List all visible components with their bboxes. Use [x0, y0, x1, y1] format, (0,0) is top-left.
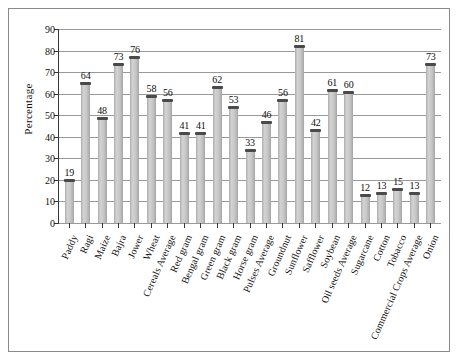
bar[interactable]: 41 — [196, 135, 205, 223]
bar-cap — [162, 99, 173, 102]
y-tick-label: 60 — [45, 88, 55, 99]
bar-cap — [360, 194, 371, 197]
x-tick-label: Onion — [420, 233, 440, 261]
y-tick-label: 50 — [45, 110, 55, 121]
bar-slot: 62 — [209, 29, 225, 223]
bar[interactable]: 56 — [163, 102, 172, 223]
x-label-slot: Red gram — [176, 231, 192, 351]
bar-cap — [277, 99, 288, 102]
bar-value-label: 15 — [393, 176, 403, 187]
x-label-slot: Onion — [423, 231, 439, 351]
x-tick-slot — [209, 223, 225, 229]
bar-value-label: 48 — [97, 105, 107, 116]
bar-value-label: 73 — [114, 51, 124, 62]
bar-slot: 56 — [275, 29, 291, 223]
y-tick-label: 70 — [45, 67, 55, 78]
x-tick-slot — [193, 223, 209, 229]
x-tick-mark — [282, 223, 283, 228]
x-tick-slot — [127, 223, 143, 229]
bar-slot: 58 — [143, 29, 159, 223]
x-tick-mark — [102, 223, 103, 228]
x-tick-mark — [381, 223, 382, 228]
bar-cap — [245, 149, 256, 152]
x-tick-mark — [430, 223, 431, 228]
bar-cap — [80, 82, 91, 85]
x-tick-mark — [217, 223, 218, 228]
bar-value-label: 12 — [360, 182, 370, 193]
bar[interactable]: 46 — [262, 124, 271, 223]
bar[interactable]: 12 — [361, 197, 370, 223]
x-tick-mark — [299, 223, 300, 228]
x-tick-slot — [143, 223, 159, 229]
bar-slot: 56 — [160, 29, 176, 223]
bar-value-label: 56 — [278, 87, 288, 98]
bar[interactable]: 56 — [278, 102, 287, 223]
bar-value-label: 19 — [64, 167, 74, 178]
x-tick-slot — [275, 223, 291, 229]
x-tick-slot — [225, 223, 241, 229]
bar-value-label: 73 — [426, 51, 436, 62]
x-tick-mark — [250, 223, 251, 228]
bar[interactable]: 33 — [246, 152, 255, 223]
bar-slot: 15 — [390, 29, 406, 223]
bar-value-label: 76 — [130, 44, 140, 55]
bar-value-label: 42 — [311, 117, 321, 128]
bar[interactable]: 64 — [81, 85, 90, 223]
bar-value-label: 13 — [377, 180, 387, 191]
bar[interactable]: 13 — [377, 195, 386, 223]
bar-cap — [179, 132, 190, 135]
bar-cap — [228, 106, 239, 109]
bar[interactable]: 15 — [393, 191, 402, 223]
bar[interactable]: 13 — [410, 195, 419, 223]
y-axis-title: Percentage — [22, 49, 34, 169]
x-tick-slot — [242, 223, 258, 229]
x-tick-mark — [348, 223, 349, 228]
x-label-slot: Bengal gram — [193, 231, 209, 351]
bar-slot: 76 — [127, 29, 143, 223]
bar-slot: 73 — [110, 29, 126, 223]
bar-cap — [261, 121, 272, 124]
bar[interactable]: 76 — [130, 59, 139, 223]
bar[interactable]: 62 — [213, 89, 222, 223]
bar-cap — [195, 132, 206, 135]
bar-cap — [327, 89, 338, 92]
bar-slot: 60 — [340, 29, 356, 223]
x-tick-slot — [258, 223, 274, 229]
bar[interactable]: 73 — [114, 66, 123, 223]
bar-cap — [392, 188, 403, 191]
bar-slot: 64 — [77, 29, 93, 223]
bar[interactable]: 48 — [98, 120, 107, 223]
bar[interactable]: 81 — [295, 48, 304, 223]
bar-value-label: 13 — [410, 180, 420, 191]
bar-value-label: 41 — [196, 120, 206, 131]
x-tick-label: Maize — [92, 233, 112, 261]
x-tick-slot — [390, 223, 406, 229]
bar[interactable]: 19 — [65, 182, 74, 223]
bar-cap — [376, 192, 387, 195]
bar-cap — [64, 179, 75, 182]
x-label-slot: Groundnut — [275, 231, 291, 351]
bar[interactable]: 60 — [344, 94, 353, 223]
bar[interactable]: 61 — [328, 92, 337, 223]
bar-slot: 13 — [373, 29, 389, 223]
bar-value-label: 64 — [81, 70, 91, 81]
bar-cap — [129, 56, 140, 59]
x-tick-mark — [85, 223, 86, 228]
x-axis-ticks — [59, 223, 441, 229]
bar[interactable]: 42 — [311, 132, 320, 223]
bar-cap — [310, 129, 321, 132]
bar[interactable]: 53 — [229, 109, 238, 223]
bar-slot: 81 — [291, 29, 307, 223]
bar[interactable]: 41 — [180, 135, 189, 223]
bar-value-label: 61 — [327, 77, 337, 88]
x-tick-slot — [357, 223, 373, 229]
y-tick-label: 0 — [50, 218, 55, 229]
x-tick-mark — [365, 223, 366, 228]
y-tick-label: 40 — [45, 131, 55, 142]
bar[interactable]: 73 — [426, 66, 435, 223]
bar[interactable]: 58 — [147, 98, 156, 223]
y-tick-label: 90 — [45, 24, 55, 35]
bar-value-label: 60 — [344, 79, 354, 90]
x-tick-mark — [151, 223, 152, 228]
bar-value-label: 58 — [147, 83, 157, 94]
